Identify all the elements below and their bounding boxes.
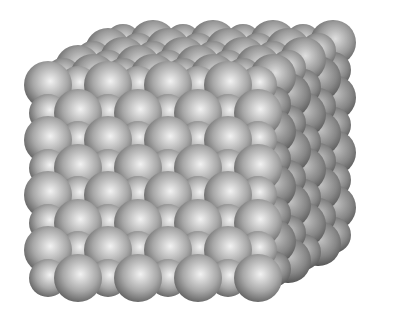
atom-sphere: [54, 254, 102, 302]
lattice-image: [0, 0, 393, 313]
atom-sphere: [234, 254, 282, 302]
atom-sphere: [114, 254, 162, 302]
atom-sphere: [174, 254, 222, 302]
